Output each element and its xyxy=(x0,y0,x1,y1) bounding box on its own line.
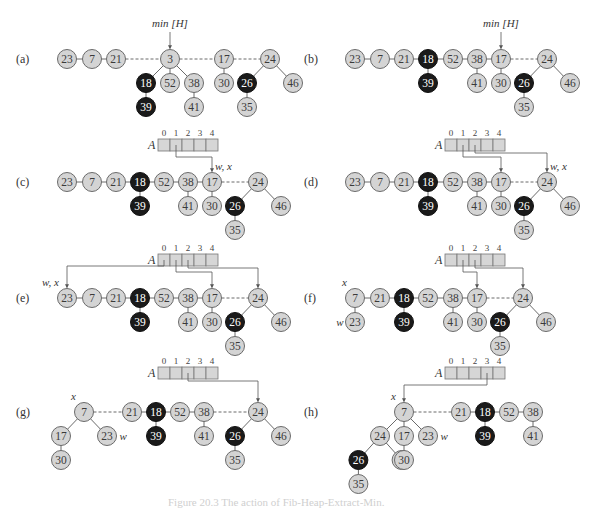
array-cell xyxy=(206,254,218,266)
array-index: 1 xyxy=(174,128,179,138)
array-index: 2 xyxy=(473,128,478,138)
heap-node: 46 xyxy=(561,74,580,93)
node-key: 39 xyxy=(398,316,410,328)
node-key: 46 xyxy=(564,77,576,89)
heap-node: 39 xyxy=(476,427,495,446)
node-key: 21 xyxy=(110,176,122,188)
array-label: A xyxy=(147,366,156,380)
array-index: 0 xyxy=(162,128,167,138)
heap-node: 30 xyxy=(203,313,222,332)
node-key: 24 xyxy=(252,292,264,304)
heap-node: 17 xyxy=(492,173,511,192)
node-key: 17 xyxy=(206,292,218,304)
node-key: 35 xyxy=(241,101,253,113)
array-index: 4 xyxy=(497,356,502,366)
node-key: 21 xyxy=(110,53,122,65)
array-index: 2 xyxy=(186,128,191,138)
figure-caption: Figure 20.3 The action of Fib-Heap-Extra… xyxy=(168,496,384,508)
array-index: 3 xyxy=(198,128,203,138)
node-key: 17 xyxy=(218,53,230,65)
heap-node: 21 xyxy=(123,403,142,422)
array-label: A xyxy=(147,138,156,152)
heap-node: 35 xyxy=(238,98,257,117)
node-key: 38 xyxy=(188,77,200,89)
heap-node: 23 xyxy=(58,50,77,69)
heap-node: 38 xyxy=(179,173,198,192)
heap-node: 41 xyxy=(195,427,214,446)
node-key: 24 xyxy=(541,53,553,65)
node-key: 35 xyxy=(353,478,365,490)
heap-node: 38 xyxy=(179,289,198,308)
panel-a: (a)2372131839523841173024263546min [H] xyxy=(16,17,303,117)
node-key: 24 xyxy=(517,292,529,304)
node-key: 30 xyxy=(218,77,230,89)
node-key: 35 xyxy=(494,340,506,352)
node-key: 21 xyxy=(398,176,410,188)
node-key: 18 xyxy=(134,292,146,304)
node-key: 38 xyxy=(471,176,483,188)
node-key: 23 xyxy=(61,292,73,304)
node-key: 3 xyxy=(167,53,173,65)
node-key: 17 xyxy=(206,176,218,188)
node-key: 18 xyxy=(134,176,146,188)
heap-node: 52 xyxy=(444,173,463,192)
node-key: 52 xyxy=(503,406,515,418)
heap-node: 38 xyxy=(524,403,543,422)
heap-node: 35 xyxy=(349,475,368,494)
heap-node: 52 xyxy=(155,173,174,192)
pointer-label-wx: w, x xyxy=(42,276,59,288)
node-key: 46 xyxy=(540,316,552,328)
heap-node: 24 xyxy=(538,173,557,192)
array-cell xyxy=(493,139,505,151)
node-key: 21 xyxy=(110,292,122,304)
node-key: 17 xyxy=(495,176,507,188)
heap-node: 23 xyxy=(346,50,365,69)
heap-node: 21 xyxy=(452,403,471,422)
heap-node: 41 xyxy=(468,197,487,216)
node-key: 41 xyxy=(471,77,483,89)
pointer-label-x: x xyxy=(70,390,76,402)
node-key: 41 xyxy=(188,101,200,113)
pointer-label-w: w xyxy=(441,430,449,442)
heap-node: 17 xyxy=(203,289,222,308)
node-key: 39 xyxy=(479,430,491,442)
node-key: 35 xyxy=(518,101,530,113)
pointer-label-x: x xyxy=(390,390,396,402)
heap-node: 17 xyxy=(203,173,222,192)
node-key: 35 xyxy=(229,224,241,236)
array-cell xyxy=(194,367,206,379)
array-cell xyxy=(194,254,206,266)
node-key: 23 xyxy=(422,430,434,442)
heap-node: 21 xyxy=(107,50,126,69)
node-key: 30 xyxy=(471,316,483,328)
node-key: 18 xyxy=(422,53,434,65)
array-cell xyxy=(445,254,457,266)
node-key: 23 xyxy=(61,176,73,188)
heap-node: 18 xyxy=(131,289,150,308)
array-index: 4 xyxy=(210,243,215,253)
array-cell xyxy=(182,139,194,151)
fibonacci-heap-diagram: (a)2372131839523841173024263546min [H](b… xyxy=(0,0,598,512)
heap-node: 38 xyxy=(468,173,487,192)
node-key: 38 xyxy=(527,406,539,418)
node-key: 24 xyxy=(252,406,264,418)
array-index: 1 xyxy=(174,243,179,253)
heap-node: 23 xyxy=(58,173,77,192)
node-key: 7 xyxy=(377,176,383,188)
min-pointer-label: min [H] xyxy=(152,17,188,29)
heap-node: 26 xyxy=(515,74,534,93)
array-cell xyxy=(481,139,493,151)
heap-node: 24 xyxy=(371,427,390,446)
heap-node: 23 xyxy=(346,313,365,332)
heap-node: 41 xyxy=(444,313,463,332)
node-key: 26 xyxy=(229,430,241,442)
heap-node: 23 xyxy=(419,427,438,446)
panel-label: (c) xyxy=(16,175,29,189)
array-cell xyxy=(170,367,182,379)
heap-node: 38 xyxy=(195,403,214,422)
node-key: 41 xyxy=(447,316,459,328)
node-key: 30 xyxy=(495,77,507,89)
heap-node: 39 xyxy=(131,313,150,332)
array-index: 0 xyxy=(162,243,167,253)
node-key: 21 xyxy=(374,292,386,304)
